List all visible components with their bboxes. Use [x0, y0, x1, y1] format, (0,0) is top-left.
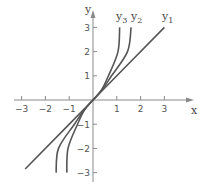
x-tick-label: −2 — [39, 104, 52, 114]
y-tick-label: 2 — [84, 47, 90, 57]
y-tick-label: 3 — [84, 23, 90, 33]
y-axis-arrow-icon — [91, 10, 96, 18]
chart: −3−2−1123321−1−2−3 y x y3 y2 y1 — [0, 0, 207, 187]
series-label-y2: y2 — [131, 11, 142, 25]
x-tick-label: 2 — [138, 104, 144, 114]
x-tick-label: 3 — [162, 104, 168, 114]
axis-label-y: y — [85, 4, 91, 15]
series-label-y1: y1 — [162, 11, 173, 25]
series-label-y3: y3 — [116, 11, 127, 25]
y-tick-label: 1 — [84, 71, 90, 81]
x-tick-label: 1 — [114, 104, 120, 114]
x-tick-label: −3 — [15, 104, 28, 114]
y-tick-label: −3 — [77, 168, 90, 178]
plot-area: −3−2−1123321−1−2−3 — [0, 0, 207, 187]
axis-label-x: x — [191, 105, 197, 116]
x-tick-label: −1 — [63, 104, 76, 114]
y-tick-label: −2 — [77, 144, 90, 154]
x-axis-arrow-icon — [186, 98, 194, 103]
